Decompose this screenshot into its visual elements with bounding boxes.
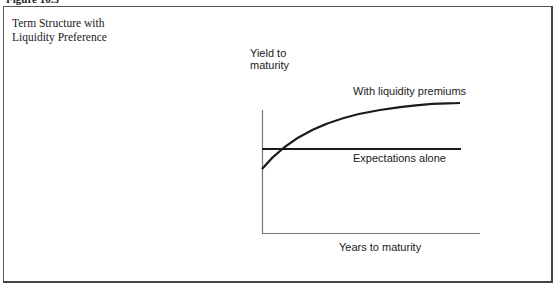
plot-area xyxy=(0,0,560,289)
series-label-liquidity-premiums: With liquidity premiums xyxy=(353,85,466,97)
series-label-expectations-alone: Expectations alone xyxy=(353,152,446,164)
x-axis-label: Years to maturity xyxy=(339,241,421,253)
